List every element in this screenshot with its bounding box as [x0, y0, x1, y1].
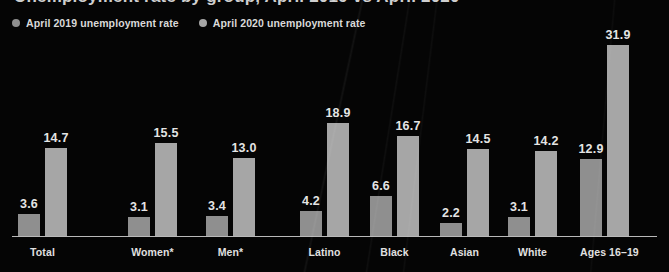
category-label: Men* — [206, 246, 255, 258]
bar-pair: 3.114.2 — [508, 151, 557, 236]
bar-item[interactable]: 6.6 — [370, 196, 392, 236]
bar-item[interactable]: 14.2 — [535, 151, 557, 236]
bar-item[interactable]: 3.4 — [206, 216, 228, 236]
bar-item[interactable]: 12.9 — [580, 159, 602, 236]
bar-item[interactable]: 4.2 — [300, 211, 322, 236]
bar-value-label: 6.6 — [372, 179, 390, 193]
bar-value-label: 3.4 — [208, 199, 226, 213]
bar[interactable] — [206, 216, 228, 236]
bar-value-label: 13.0 — [231, 141, 256, 155]
bar-item[interactable]: 16.7 — [397, 136, 419, 236]
bar[interactable] — [128, 217, 150, 236]
bar[interactable] — [467, 149, 489, 236]
category-label: Latino — [300, 246, 349, 258]
bar[interactable] — [18, 214, 40, 236]
bar-value-label: 14.5 — [465, 132, 490, 146]
category-label: Women* — [128, 246, 177, 258]
bar-group: 12.931.9Ages 16–19 — [580, 0, 629, 272]
bar-group: 6.616.7Black — [370, 0, 419, 272]
bar-group: 3.413.0Men* — [206, 0, 255, 272]
bar-value-label: 2.2 — [442, 206, 460, 220]
chart-container: Unemployment rate by group, April 2019 v… — [0, 0, 669, 272]
bar-group: 2.214.5Asian — [440, 0, 489, 272]
bar-pair: 3.115.5 — [128, 143, 177, 236]
bar[interactable] — [440, 223, 462, 236]
bar-value-label: 18.9 — [325, 106, 350, 120]
bar-group: 3.614.7Total — [18, 0, 67, 272]
bar[interactable] — [535, 151, 557, 236]
bar[interactable] — [397, 136, 419, 236]
bar[interactable] — [580, 159, 602, 236]
bar-item[interactable]: 14.7 — [45, 148, 67, 236]
bar-item[interactable]: 3.1 — [128, 217, 150, 236]
bar-item[interactable]: 2.2 — [440, 223, 462, 236]
bar-group: 4.218.9Latino — [300, 0, 349, 272]
bar[interactable] — [300, 211, 322, 236]
category-label: Ages 16–19 — [580, 246, 629, 258]
bar[interactable] — [155, 143, 177, 236]
bar-value-label: 3.1 — [130, 200, 148, 214]
category-label: Total — [18, 246, 67, 258]
bar-item[interactable]: 3.1 — [508, 217, 530, 236]
bar[interactable] — [233, 158, 255, 236]
bar-pair: 3.614.7 — [18, 148, 67, 236]
bar-value-label: 12.9 — [578, 142, 603, 156]
category-label: Black — [370, 246, 419, 258]
bar-pair: 3.413.0 — [206, 158, 255, 236]
bar[interactable] — [370, 196, 392, 236]
bar[interactable] — [508, 217, 530, 236]
bar[interactable] — [327, 123, 349, 236]
category-label: White — [508, 246, 557, 258]
bar-value-label: 3.1 — [510, 200, 528, 214]
bar-value-label: 14.7 — [43, 131, 68, 145]
bar-group: 3.114.2White — [508, 0, 557, 272]
bar-group: 3.115.5Women* — [128, 0, 177, 272]
bar-item[interactable]: 18.9 — [327, 123, 349, 236]
bar-value-label: 15.5 — [153, 126, 178, 140]
bar-pair: 6.616.7 — [370, 136, 419, 236]
bar-value-label: 31.9 — [605, 28, 630, 42]
category-label: Asian — [440, 246, 489, 258]
bar-value-label: 14.2 — [533, 134, 558, 148]
bar-item[interactable]: 31.9 — [607, 45, 629, 236]
bar-item[interactable]: 15.5 — [155, 143, 177, 236]
plot-area: 3.614.7Total3.115.5Women*3.413.0Men*4.21… — [0, 0, 669, 272]
bar-value-label: 4.2 — [302, 194, 320, 208]
bar[interactable] — [607, 45, 629, 236]
bar[interactable] — [45, 148, 67, 236]
bar-value-label: 16.7 — [395, 119, 420, 133]
bar-value-label: 3.6 — [20, 197, 38, 211]
bar-pair: 2.214.5 — [440, 149, 489, 236]
bar-item[interactable]: 3.6 — [18, 214, 40, 236]
bar-item[interactable]: 13.0 — [233, 158, 255, 236]
bar-pair: 12.931.9 — [580, 45, 629, 236]
bar-pair: 4.218.9 — [300, 123, 349, 236]
bar-item[interactable]: 14.5 — [467, 149, 489, 236]
